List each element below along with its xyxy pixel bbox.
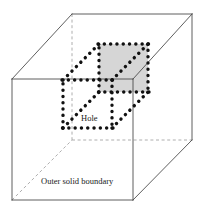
outer-solid-boundary-label: Outer solid boundary — [41, 177, 113, 186]
outer-hidden-edges-group — [12, 14, 192, 200]
hole-label: Hole — [81, 114, 98, 123]
outer-visible-edges-group — [12, 14, 192, 200]
hole-edge-diagonal-top-left — [63, 44, 99, 80]
outer-edge-diagonal-bottom-right — [133, 140, 192, 200]
figure-container: Hole Outer solid boundary — [0, 0, 199, 212]
outer-edge-diagonal-top-left — [12, 14, 72, 79]
hole-edge-diagonal-bottom-right — [112, 92, 148, 128]
outer-hidden-edge-bottom-left-diagonal — [12, 140, 72, 200]
hole-shaded-face — [99, 44, 148, 92]
